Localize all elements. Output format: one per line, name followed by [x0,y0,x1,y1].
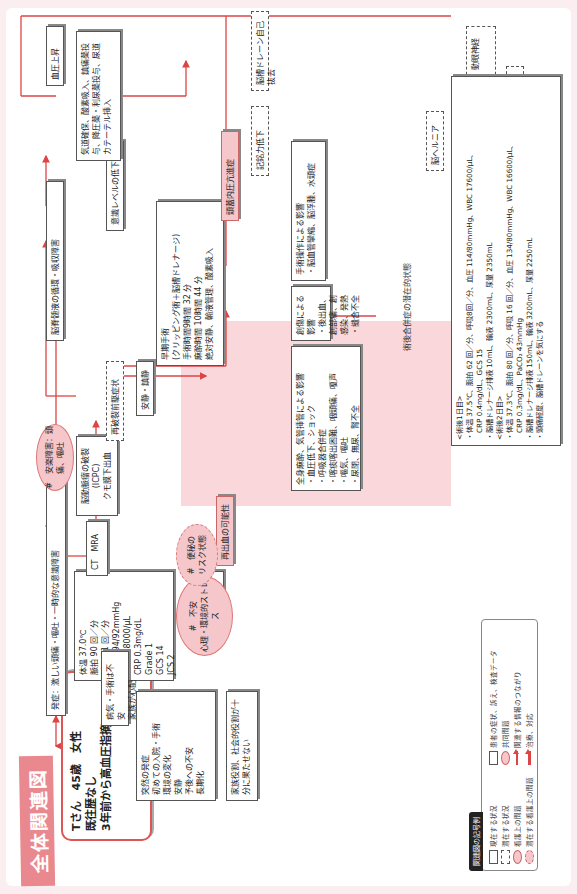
node-stress-factors: 突然の発症 初めての入院・手術 環境の変化 安静 予後への不安 長期化 [136,691,216,801]
problem-pain: # 安楽障害：頭痛、嘔吐 [36,424,74,491]
thick-arrow-icon [528,751,531,765]
node-anxiety-note: 病気・手術は不安 家族が心配 [101,651,129,726]
dashed-box-icon [501,850,510,864]
solid-box-icon [489,850,498,864]
arrow-icon [516,751,518,765]
legend-item: 現在する状況 [488,805,498,864]
ellipse-icon [513,850,522,864]
legend-item: 患者の症状、訴え、検査データ [488,650,498,765]
shared-problem-icon [501,751,510,765]
node-treatment: 気道確保、酸素吸入、鎮痛薬投与、降圧薬・利尿薬投与、尿道カテーテル挿入 [76,31,121,161]
legend-item: 治療、対応 [524,713,534,765]
node-rebleed: 再出血の可能性 [216,496,234,566]
node-aneurysm: 脳動脈瘤の破裂 (ICPC) クモ膜下出血 [76,436,118,516]
problem-constipation: # 便秘の リスク状態 [176,524,218,586]
legend-item: 看護上の問題 [512,805,522,864]
legend-item: 潜在する看護上の問題 [524,777,534,864]
problem-anxiety: # 不安 心理・環境的ストレス [176,576,233,656]
page-title: 全体関連図 [19,756,55,887]
legend-item: 共同問題 [500,720,510,765]
node-family-role: 家族役割、社会的役割が十分に果たせない [226,691,258,801]
node-wound-effect: 創傷による影響 ・後出血、創部痛、創感染、発熱 ・縫合不全 [291,286,331,341]
diagram-page: 術後合併症の潜在的状態 [6,8,571,886]
legend-item: 潜在する状況 [500,805,510,864]
legend: 関連図の記号例 現在する状況 潜在する状況 看護上の問題 潜在する看護上の問題 … [481,619,538,871]
node-csf-disorder: 脳脊髄液の循環・吸収障害 [46,181,64,341]
node-memory: 記銘力低下 [251,106,269,176]
diagram-stage: 術後合併症の潜在的状態 [0,0,577,894]
node-rebleed-sign: 再破裂前駆症状 [106,361,124,441]
node-icp: 頭蓋内圧亢進症 [221,131,239,221]
node-anesthesia-effect: 全身麻酔、気管挿管による影響 ・血圧低下、ショック ・呼吸器合併症 ・喀痰喀出困… [291,346,361,491]
node-onset: 発症：激しい頭痛・嘔吐・一時的な意識障害 [46,476,66,716]
legend-item: 関連する情報のつながり [512,671,522,765]
note-box-icon [489,751,498,765]
postop-note: <術後1日目> ・体温 37.5℃、脈拍 62 回／分、呼吸8回／分、血圧 11… [451,76,561,446]
node-surgery: 早期手術 (クリッピング術＋脳槽ドレナージ) 手術時間9時間 32 分 麻酔時間… [156,201,224,366]
dashed-ellipse-icon [525,850,534,864]
node-herniation: 脳ヘルニア [426,111,444,171]
node-ct-mra: CT MRA [86,521,108,576]
node-bp-up-top: 血圧上昇 [46,26,64,86]
node-drain-removal: 脳槽ドレーン自己抜去 [251,11,269,91]
legend-title: 関連図の記号例 [469,812,483,871]
node-rest: 安静・鎮静 [136,361,154,416]
node-surgical-effect: 手術操作による影響 ・脳血管攣縮、脳浮腫、水頭症 [291,141,326,281]
